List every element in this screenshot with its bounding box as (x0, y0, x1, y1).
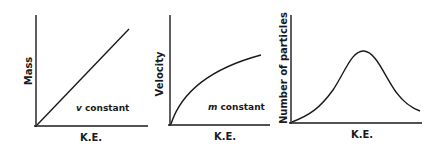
x-axis-label: K.E. (214, 131, 236, 142)
x-axis-label: K.E. (351, 129, 373, 140)
y-axis-label: Velocity (154, 51, 165, 96)
annotation: m constant (208, 102, 266, 112)
x-axis-label: K.E. (80, 132, 102, 143)
y-axis-label: Mass (23, 57, 34, 86)
panel-particles-vs-ke: Number of particles K.E. (278, 12, 422, 140)
y-axis-label: Number of particles (278, 12, 289, 124)
diagram: Mass K.E. v constant Velocity K.E. m con… (0, 0, 442, 152)
annotation: v constant (76, 103, 130, 113)
panel-velocity-vs-ke: Velocity K.E. m constant (154, 15, 270, 142)
distribution-curve (292, 51, 420, 122)
panel-mass-vs-ke: Mass K.E. v constant (23, 15, 148, 143)
sqrt-curve (171, 55, 261, 124)
